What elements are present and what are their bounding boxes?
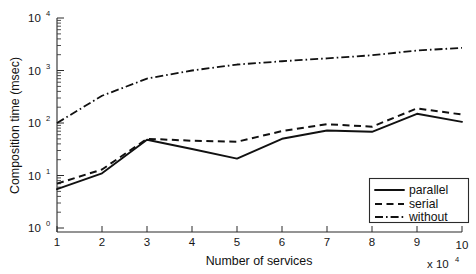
legend-label-without: without bbox=[408, 210, 448, 224]
y-tick-exponent-10: 1 bbox=[46, 167, 50, 176]
y-axis-title: Composition time (msec) bbox=[8, 57, 22, 194]
x-tick-label-9: 9 bbox=[414, 236, 420, 248]
x-tick-label-5: 5 bbox=[234, 236, 240, 248]
x-tick-label-2: 2 bbox=[99, 236, 105, 248]
chart-figure: Composition time (msec) bbox=[0, 0, 476, 274]
y-tick-exponent-10000: 4 bbox=[46, 9, 50, 18]
x-tick-label-7: 7 bbox=[324, 236, 330, 248]
x-axis-multiplier-base: x 10 bbox=[427, 258, 449, 270]
x-tick-label-10: 10 bbox=[456, 239, 469, 251]
y-tick-label-1: 10 bbox=[28, 222, 41, 234]
legend-label-serial: serial bbox=[409, 197, 438, 211]
y-tick-label-100: 10 bbox=[28, 117, 41, 129]
chart-legend[interactable]: parallel serial without bbox=[370, 179, 469, 225]
y-tick-exponent-1: 0 bbox=[46, 219, 50, 228]
y-tick-label-10: 10 bbox=[28, 170, 41, 182]
x-tick-label-8: 8 bbox=[369, 236, 375, 248]
y-tick-exponent-100: 2 bbox=[46, 114, 50, 123]
x-axis-title: Number of services bbox=[206, 254, 313, 268]
x-axis-multiplier-exponent: 4 bbox=[455, 255, 459, 264]
line-chart-plot: Composition time (msec) bbox=[0, 0, 476, 274]
y-tick-label-10000: 10 bbox=[28, 12, 41, 24]
x-tick-label-6: 6 bbox=[279, 236, 285, 248]
y-tick-label-1000: 10 bbox=[28, 65, 41, 77]
x-tick-label-3: 3 bbox=[144, 236, 150, 248]
legend-label-parallel: parallel bbox=[409, 183, 448, 197]
chart-background bbox=[0, 0, 476, 274]
y-tick-exponent-1000: 3 bbox=[46, 62, 50, 71]
x-tick-label-1: 1 bbox=[54, 236, 60, 248]
x-tick-label-4: 4 bbox=[189, 236, 196, 248]
